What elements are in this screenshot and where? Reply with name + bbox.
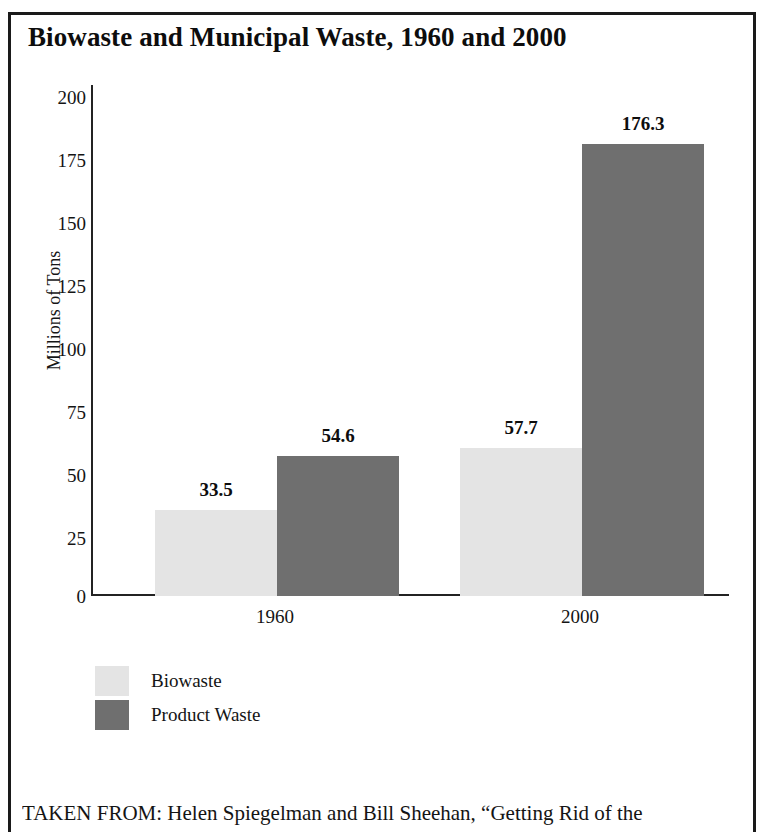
y-tick-label: 175 bbox=[24, 151, 86, 170]
bar-value-label-biowaste-2000: 57.7 bbox=[460, 417, 582, 439]
y-tick-label: 0 bbox=[24, 587, 86, 606]
bar-value-label-product-waste-2000: 176.3 bbox=[582, 113, 704, 135]
y-tick-label: 200 bbox=[24, 88, 86, 107]
figure-page: Biowaste and Municipal Waste, 1960 and 2… bbox=[0, 0, 767, 832]
legend-swatch-icon bbox=[95, 666, 129, 696]
bars-layer: 33.5 54.6 57.7 176.3 bbox=[93, 0, 733, 596]
legend-item-biowaste[interactable]: Biowaste bbox=[95, 664, 260, 698]
chart-legend: Biowaste Product Waste bbox=[95, 664, 260, 732]
legend-label: Biowaste bbox=[151, 670, 222, 692]
bar-product-waste-2000[interactable] bbox=[582, 144, 704, 596]
legend-label: Product Waste bbox=[151, 704, 260, 726]
legend-swatch-icon bbox=[95, 700, 129, 730]
legend-item-product-waste[interactable]: Product Waste bbox=[95, 698, 260, 732]
x-tick-label-1960: 1960 bbox=[155, 606, 395, 628]
y-tick-label: 100 bbox=[24, 340, 86, 359]
bar-value-label-biowaste-1960: 33.5 bbox=[155, 479, 277, 501]
y-tick-label: 150 bbox=[24, 214, 86, 233]
y-tick-label: 50 bbox=[24, 466, 86, 485]
y-tick-label: 125 bbox=[24, 277, 86, 296]
bar-biowaste-2000[interactable] bbox=[460, 448, 582, 596]
bar-biowaste-1960[interactable] bbox=[155, 510, 277, 596]
y-axis-tick-labels: 200 175 150 125 100 75 50 25 0 bbox=[14, 0, 86, 660]
figure-caption: TAKEN FROM: Helen Spiegelman and Bill Sh… bbox=[22, 800, 742, 826]
plot-area: Millions of Tons 200 175 150 125 100 75 … bbox=[0, 0, 748, 660]
bar-product-waste-1960[interactable] bbox=[277, 456, 399, 596]
y-tick-label: 25 bbox=[24, 529, 86, 548]
y-tick-label: 75 bbox=[24, 403, 86, 422]
x-tick-label-2000: 2000 bbox=[460, 606, 700, 628]
bar-value-label-product-waste-1960: 54.6 bbox=[277, 425, 399, 447]
